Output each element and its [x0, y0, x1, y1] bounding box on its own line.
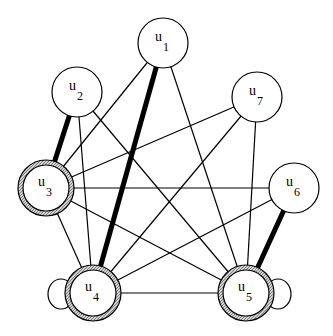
node-subscript: 4: [93, 290, 99, 304]
node-u2: u2: [52, 67, 102, 117]
nodes-layer: u1u2u3u4u5u6u7: [18, 18, 319, 321]
node-subscript: 1: [163, 40, 169, 54]
node-u5: u5: [218, 265, 274, 321]
node-u3: u3: [18, 160, 74, 216]
node-label: u: [238, 279, 245, 294]
edge-u7-u5: [246, 97, 257, 293]
edge-u1-u4: [93, 43, 163, 293]
node-subscript: 6: [294, 185, 300, 199]
node-label: u: [286, 174, 293, 189]
node-label: u: [85, 279, 92, 294]
node-u4: u4: [65, 265, 121, 321]
graph-diagram: u1u2u3u4u5u6u7: [0, 0, 333, 336]
node-subscript: 5: [246, 290, 252, 304]
node-subscript: 7: [257, 94, 263, 108]
node-u1: u1: [138, 18, 188, 68]
node-u7: u7: [232, 72, 282, 122]
node-subscript: 2: [77, 89, 83, 103]
node-u6: u6: [269, 163, 319, 213]
edge-u7-u4: [93, 97, 257, 293]
node-label: u: [249, 83, 256, 98]
node-label: u: [69, 78, 76, 93]
node-label: u: [155, 29, 162, 44]
node-subscript: 3: [46, 185, 52, 199]
node-label: u: [38, 174, 45, 189]
